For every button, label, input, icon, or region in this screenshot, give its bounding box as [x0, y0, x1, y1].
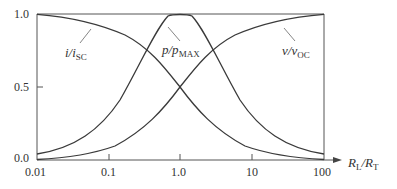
x-axis-arrow-icon: [333, 157, 342, 163]
v-voc-curve: [37, 14, 324, 159]
x-tick-label-100: 100: [313, 165, 331, 179]
x-tick-label-01: 0.1: [101, 165, 116, 179]
v-voc-leader: [284, 28, 295, 41]
p-pmax-leader: [168, 27, 180, 41]
x-tick-label-001: 0.01: [25, 165, 46, 179]
i-isc-label: i/iSC: [65, 45, 87, 62]
p-pmax-label: p/pMAX: [161, 42, 200, 59]
p-pmax-curve: [37, 15, 324, 155]
x-tick-label-1: 1.0: [171, 165, 186, 179]
x-tick-label-10: 10: [246, 165, 258, 179]
chart: 1.0 0.5 0.0 0.01 0.1 1.0 10 100 RL/RT i/…: [0, 0, 397, 189]
y-tick-label-0: 0.0: [14, 151, 29, 165]
y-tick-label-1: 1.0: [14, 7, 29, 21]
v-voc-label: v/vOC: [282, 43, 310, 60]
y-tick-label-05: 0.5: [14, 80, 29, 94]
x-axis-label: RL/RT: [347, 155, 379, 172]
i-isc-leader: [80, 29, 91, 43]
